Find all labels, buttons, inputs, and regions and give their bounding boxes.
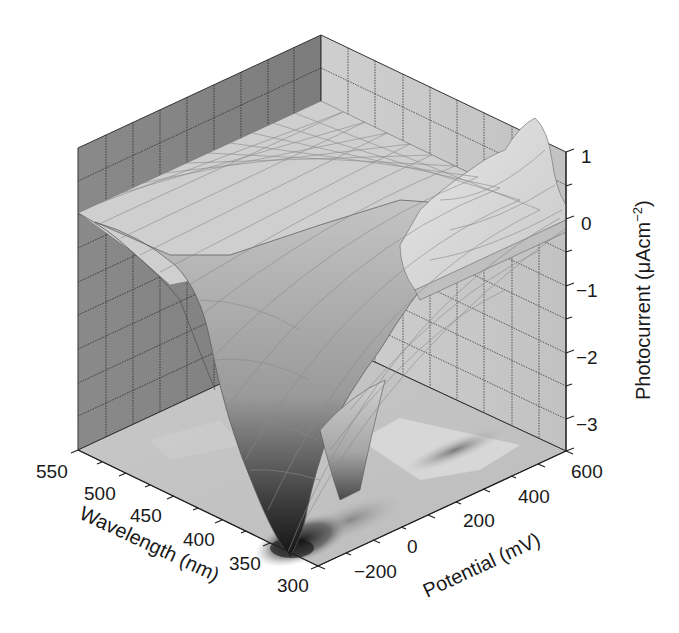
z-tick-label: 0 [581, 213, 592, 234]
y-tick-label: −200 [354, 561, 397, 582]
x-tick-label: 350 [229, 553, 261, 574]
x-tick-label: 450 [130, 505, 162, 526]
z-tick-label: −2 [576, 347, 598, 368]
x-tick-label: 300 [277, 575, 309, 596]
z-axis-label: Photocurrent (μAcm−2) [630, 200, 654, 400]
x-tick-label: 550 [36, 461, 68, 482]
z-axis: 1 0 −1 −2 −3 Photocurrent (μAcm−2) [566, 146, 654, 451]
y-tick-label: 400 [518, 486, 550, 507]
surface-plot: 1 0 −1 −2 −3 Photocurrent (μAcm−2) 550 5… [0, 0, 679, 633]
y-axis-label: Potential (mV) [419, 528, 543, 601]
y-tick-label: 200 [463, 510, 495, 531]
x-tick-label: 500 [84, 483, 116, 504]
y-tick-label: 600 [571, 461, 603, 482]
z-tick-label: −3 [576, 414, 598, 435]
z-tick-label: 1 [581, 146, 592, 167]
z-tick-label: −1 [576, 280, 598, 301]
x-tick-label: 400 [183, 529, 215, 550]
y-tick-label: 0 [407, 536, 418, 557]
